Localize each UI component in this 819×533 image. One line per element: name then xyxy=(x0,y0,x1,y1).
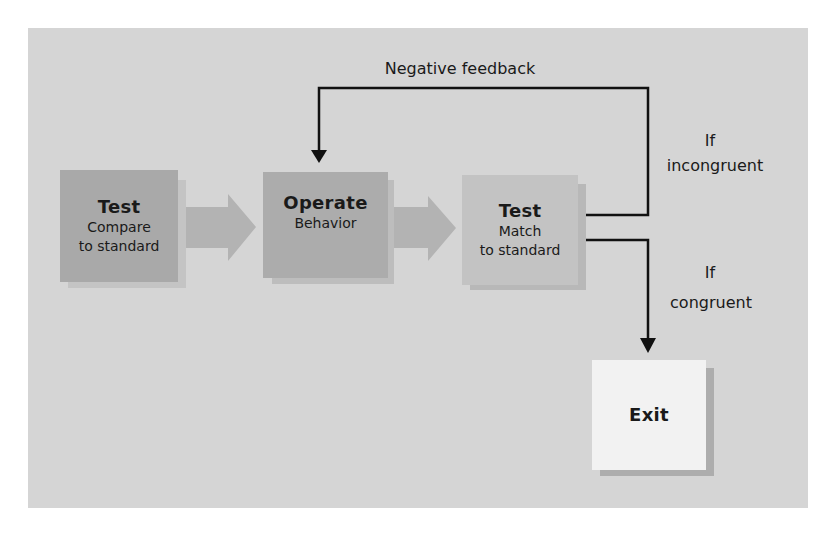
node-title: Operate xyxy=(283,192,367,214)
node-test-compare: Test Compare to standard xyxy=(60,170,178,282)
node-line: to standard xyxy=(480,241,561,260)
incongruent-word-label: incongruent xyxy=(660,155,770,177)
incongruent-if-label: If xyxy=(660,130,760,152)
node-line: Compare xyxy=(87,218,151,237)
node-title: Exit xyxy=(629,404,669,426)
node-exit: Exit xyxy=(592,360,706,470)
node-test-match: Test Match to standard xyxy=(462,175,578,285)
node-line: Behavior xyxy=(294,214,356,233)
node-line: Match xyxy=(499,222,542,241)
congruent-arrowhead-icon xyxy=(640,338,656,353)
negative-feedback-arrowhead-icon xyxy=(311,150,327,163)
block-arrow-test-to-operate xyxy=(176,194,256,261)
node-operate: Operate Behavior xyxy=(263,172,388,278)
node-title: Test xyxy=(499,200,542,222)
negative-feedback-label: Negative feedback xyxy=(360,58,560,80)
congruent-line xyxy=(578,240,648,340)
congruent-word-label: congruent xyxy=(656,292,766,314)
congruent-if-label: If xyxy=(660,262,760,284)
block-arrow-operate-to-test xyxy=(386,196,456,261)
node-line: to standard xyxy=(79,237,160,256)
node-title: Test xyxy=(98,196,141,218)
